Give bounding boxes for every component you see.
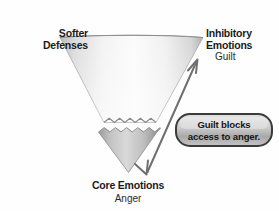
callout-line-2: access to anger.: [178, 131, 270, 143]
label-anger: Anger: [66, 193, 190, 204]
callout-text: Guilt blocks access to anger.: [178, 119, 270, 143]
inhibitory-line: Inhibitory: [206, 27, 252, 39]
label-softer-defenses: Softer Defenses: [14, 28, 88, 52]
label-guilt: Guilt: [215, 51, 236, 62]
callout-line-1: Guilt blocks: [178, 119, 270, 131]
emotions-line: Emotions: [206, 39, 252, 51]
emotion-funnel-diagram: Softer Defenses Inhibitory Emotions Guil…: [0, 0, 279, 211]
defenses-line: Defenses: [43, 39, 88, 51]
label-core-emotions: Core Emotions: [66, 180, 190, 192]
label-inhibitory-emotions: Inhibitory Emotions: [206, 28, 252, 52]
softer-line: Softer: [59, 27, 88, 39]
